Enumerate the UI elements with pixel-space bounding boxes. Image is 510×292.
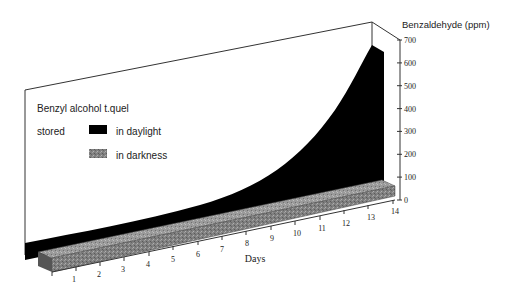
- x-tick-14: 14: [391, 207, 399, 216]
- y-tick-600: 600: [404, 59, 416, 68]
- y-axis-label: Benzaldehyde (ppm): [402, 19, 490, 30]
- x-tick-9: 9: [270, 234, 274, 243]
- x-tick-13: 13: [367, 213, 375, 222]
- y-tick-0: 0: [404, 196, 408, 205]
- legend-label-daylight: in daylight: [116, 126, 161, 137]
- legend-title: Benzyl alcohol t.quel: [37, 103, 129, 114]
- y-axis: 700 600 500 400 300 200 100 0: [397, 36, 416, 205]
- x-tick-5: 5: [171, 255, 175, 264]
- x-tick-1: 1: [72, 275, 76, 284]
- x-tick-4: 4: [146, 260, 150, 269]
- x-tick-6: 6: [196, 250, 200, 259]
- y-tick-200: 200: [404, 150, 416, 159]
- legend-stored: stored: [37, 126, 65, 137]
- x-tick-11: 11: [318, 224, 326, 233]
- x-tick-2: 2: [97, 270, 101, 279]
- y-tick-300: 300: [404, 127, 416, 136]
- legend: Benzyl alcohol t.quel stored in daylight…: [37, 103, 167, 161]
- legend-label-darkness: in darkness: [116, 150, 167, 161]
- y-tick-400: 400: [404, 105, 416, 114]
- x-tick-3: 3: [121, 265, 125, 274]
- y-tick-700: 700: [404, 36, 416, 45]
- x-tick-7: 7: [220, 245, 224, 254]
- y-tick-100: 100: [404, 173, 416, 182]
- y-tick-500: 500: [404, 82, 416, 91]
- legend-swatch-daylight: [89, 125, 107, 134]
- x-tick-8: 8: [245, 239, 249, 248]
- x-tick-10: 10: [293, 229, 301, 238]
- chart-canvas: 700 600 500 400 300 200 100 0 Benzaldehy…: [0, 0, 510, 292]
- x-axis-label: Days: [245, 253, 266, 264]
- legend-swatch-darkness: [89, 149, 107, 158]
- x-tick-12: 12: [342, 219, 350, 228]
